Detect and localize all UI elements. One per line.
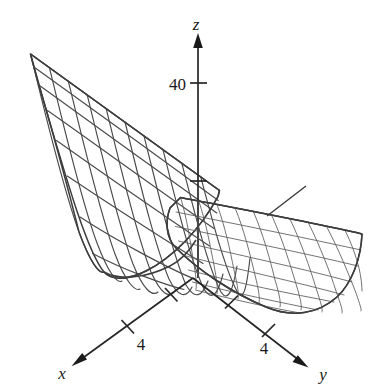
z-axis-label: z [192, 15, 200, 34]
y-axis-label: y [317, 365, 327, 384]
x-axis-tick-label-4: 4 [137, 335, 146, 354]
x-axis[interactable] [72, 278, 194, 366]
x-axis-label: x [57, 364, 66, 383]
y-axis-tick-4 [262, 324, 275, 337]
surface-sheet-dark [31, 54, 251, 296]
surface-plot-figure: z 40 x 4 y 4 [0, 0, 380, 390]
plot-canvas: z 40 x 4 y 4 [0, 0, 380, 390]
surface-sheet-light [167, 198, 362, 314]
z-axis[interactable] [193, 33, 203, 200]
surface-fold-line [104, 240, 196, 277]
y-axis-tick-label-4: 4 [260, 339, 269, 358]
z-axis-tick-label-40: 40 [169, 75, 186, 94]
y-axis[interactable] [193, 278, 309, 368]
surface-pointer-line [267, 186, 306, 216]
